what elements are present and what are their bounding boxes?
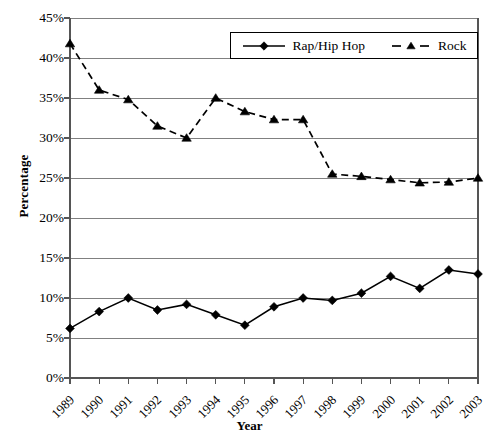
legend-entry-rock: Rock [391,38,467,54]
chart-legend: Rap/Hip HopRock [230,32,478,59]
legend-label: Rock [438,38,467,54]
music-genre-popularity-chart: Percentage 0%5%10%15%20%25%30%35%40%45% … [0,0,499,435]
legend-marker [407,42,415,49]
x-axis-title: Year [0,418,499,434]
legend-marker [259,41,267,49]
x-axis-tick-labels: 1989199019911992199319941995199619971998… [0,0,499,435]
legend-label: Rap/Hip Hop [293,38,365,54]
triangle-marker-icon [391,40,431,52]
legend-entry-rap-hip-hop: Rap/Hip Hop [242,38,365,54]
diamond-marker-icon [242,40,286,52]
